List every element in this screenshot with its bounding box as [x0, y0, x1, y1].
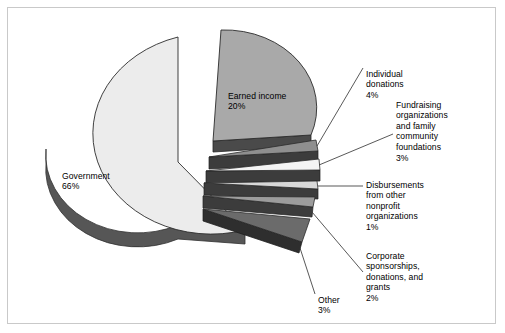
- pie-label-disbursements-nonprofit-name: Disbursements from other nonprofit organ…: [366, 180, 424, 222]
- pie-label-other: Other 3%: [318, 284, 340, 326]
- leader-line-corporate-sponsorships: [312, 212, 363, 272]
- pie-label-fundraising-organizations-name: Fundraising organizations and family com…: [396, 100, 448, 152]
- pie-label-earned-income: Earned income 20%: [228, 80, 286, 122]
- pie-label-fundraising-organizations-percent: 3%: [396, 153, 448, 164]
- pie-label-government: Government 66%: [62, 160, 110, 202]
- pie-chart-figure: Government 66% Earned income 20% Individ…: [0, 0, 505, 333]
- pie-label-corporate-sponsorships: Corporate sponsorships, donations, and g…: [366, 240, 423, 314]
- pie-label-earned-income-name: Earned income: [228, 91, 286, 101]
- pie-label-government-percent: 66%: [62, 181, 110, 192]
- leader-line-individual-donations: [317, 68, 363, 146]
- pie-label-earned-income-percent: 20%: [228, 101, 286, 112]
- pie-label-disbursements-nonprofit-percent: 1%: [366, 222, 424, 233]
- pie-label-corporate-sponsorships-name: Corporate sponsorships, donations, and g…: [366, 251, 423, 293]
- leader-line-fundraising-organizations: [319, 134, 393, 165]
- pie-label-other-name: Other: [318, 295, 340, 305]
- pie-label-individual-donations-name: Individual donations: [366, 69, 404, 90]
- leader-line-other: [300, 248, 315, 294]
- pie-label-government-name: Government: [62, 171, 110, 181]
- pie-label-corporate-sponsorships-percent: 2%: [366, 293, 423, 304]
- pie-label-disbursements-nonprofit: Disbursements from other nonprofit organ…: [366, 169, 424, 243]
- pie-label-other-percent: 3%: [318, 305, 340, 316]
- pie-label-fundraising-organizations: Fundraising organizations and family com…: [396, 89, 448, 174]
